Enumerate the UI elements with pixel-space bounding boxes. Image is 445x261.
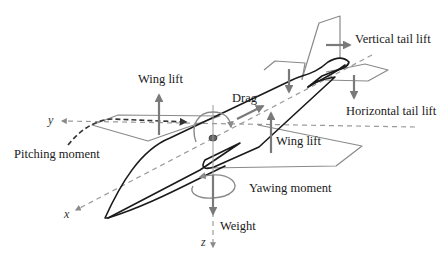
y-axis (62, 121, 415, 127)
drag-label: Drag (232, 91, 258, 105)
yawing-moment-label: Yawing moment (249, 181, 332, 195)
wing-lift-right-label: Wing lift (276, 134, 322, 148)
x-axis-label: x (63, 207, 70, 221)
drag-arrow (237, 106, 263, 119)
z-axis-label: z (200, 235, 206, 249)
horizontal-tail-lift-label: Horizontal tail lift (346, 104, 437, 118)
wing-lift-left-label: Wing lift (138, 72, 184, 86)
y-axis-label: y (47, 113, 54, 127)
vertical-tail (302, 16, 340, 79)
vertical-tail-lift-label: Vertical tail lift (355, 32, 431, 46)
weight-label: Weight (220, 219, 256, 233)
pitching-moment-label: Pitching moment (14, 147, 100, 161)
fuselage-underside (108, 166, 225, 218)
aircraft-force-diagram: Wing lift Wing lift Drag Vertical tail l… (0, 0, 445, 261)
tail-cone (308, 65, 345, 87)
